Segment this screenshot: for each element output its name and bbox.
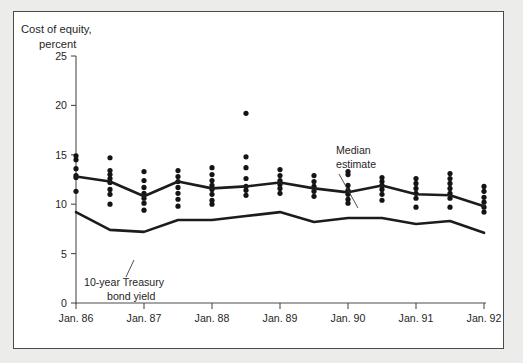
treasury-annotation-leader <box>126 260 134 277</box>
scatter-dot <box>243 176 248 181</box>
scatter-dot <box>107 192 112 197</box>
scatter-dot <box>209 192 214 197</box>
scatter-dot <box>141 201 146 206</box>
scatter-dot <box>277 191 282 196</box>
scatter-dot <box>277 186 282 191</box>
scatter-dot <box>243 154 248 159</box>
scatter-dot <box>379 198 384 203</box>
median-annotation-line1: Median <box>336 144 371 156</box>
scatter-dot <box>311 194 316 199</box>
treasury-annotation-line2: bond yield <box>107 290 155 302</box>
scatter-dot <box>345 172 350 177</box>
scatter-dot <box>379 187 384 192</box>
scatter-dot <box>141 185 146 190</box>
scatter-points-layer <box>73 111 486 215</box>
scatter-dot <box>345 201 350 206</box>
scatter-dot <box>481 210 486 215</box>
scatter-dot <box>73 157 78 162</box>
scatter-dot <box>481 184 486 189</box>
treasury-yield-annotation: 10-year Treasury bond yield <box>84 260 165 302</box>
y-tick-label: 5 <box>61 248 67 260</box>
x-tick-label: Jan. 86 <box>59 312 94 324</box>
treasury-annotation-line1: 10-year Treasury <box>84 276 165 288</box>
scatter-dot <box>175 191 180 196</box>
scatter-dot <box>107 202 112 207</box>
scatter-dot <box>447 181 452 186</box>
scatter-dot <box>481 200 486 205</box>
scatter-dot <box>107 155 112 160</box>
y-axis-title-line2: percent <box>39 38 77 50</box>
scatter-dot <box>243 188 248 193</box>
cost-of-equity-chart: Cost of equity, percent 0510152025 Jan. … <box>14 12 503 348</box>
scatter-dot <box>209 165 214 170</box>
y-axis-title-line1: Cost of equity, <box>21 23 92 35</box>
scatter-dot <box>413 181 418 186</box>
scatter-dot <box>209 178 214 183</box>
scatter-dot <box>243 165 248 170</box>
x-axis: Jan. 86Jan. 87Jan. 88Jan. 89Jan. 90Jan. … <box>59 303 502 324</box>
scatter-dot <box>175 174 180 179</box>
scatter-dot <box>175 204 180 209</box>
x-tick-label: Jan. 87 <box>127 312 162 324</box>
scatter-dot <box>175 185 180 190</box>
x-tick-label: Jan. 89 <box>263 312 298 324</box>
scatter-dot <box>141 208 146 213</box>
scatter-dot <box>413 205 418 210</box>
scatter-dot <box>447 176 452 181</box>
scatter-dot <box>277 167 282 172</box>
x-tick-label: Jan. 92 <box>467 312 502 324</box>
scatter-dot <box>447 171 452 176</box>
y-tick-label: 0 <box>61 297 67 309</box>
chart-panel: Cost of equity, percent 0510152025 Jan. … <box>13 11 504 349</box>
scatter-dot <box>379 192 384 197</box>
scatter-dot <box>243 193 248 198</box>
y-tick-label: 20 <box>55 99 67 111</box>
x-tick-label: Jan. 88 <box>195 312 230 324</box>
scatter-dot <box>481 189 486 194</box>
scatter-dot <box>243 111 248 116</box>
scatter-dot <box>447 186 452 191</box>
treasury-yield-line <box>76 212 484 233</box>
scatter-dot <box>107 187 112 192</box>
scatter-dot <box>175 168 180 173</box>
scatter-dot <box>141 178 146 183</box>
scatter-dot <box>481 195 486 200</box>
figure-root: Cost of equity, percent 0510152025 Jan. … <box>0 0 523 363</box>
y-tick-label: 15 <box>55 149 67 161</box>
y-axis: 0510152025 <box>55 50 76 309</box>
x-tick-label: Jan. 91 <box>399 312 434 324</box>
scatter-dot <box>73 189 78 194</box>
scatter-dot <box>413 196 418 201</box>
scatter-dot <box>175 197 180 202</box>
x-tick-label: Jan. 90 <box>331 312 366 324</box>
scatter-dot <box>141 169 146 174</box>
scatter-dot <box>73 166 78 171</box>
scatter-dot <box>209 202 214 207</box>
scatter-dot <box>209 172 214 177</box>
median-annotation-line2: estimate <box>336 158 376 170</box>
scatter-dot <box>447 205 452 210</box>
y-tick-label: 10 <box>55 198 67 210</box>
scatter-dot <box>413 176 418 181</box>
median-estimate-annotation: Median estimate <box>336 144 376 208</box>
scatter-dot <box>311 173 316 178</box>
scatter-dot <box>277 173 282 178</box>
scatter-dot <box>413 186 418 191</box>
y-tick-label: 25 <box>55 50 67 62</box>
scatter-dot <box>311 179 316 184</box>
